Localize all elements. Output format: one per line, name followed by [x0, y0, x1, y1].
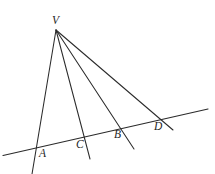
point-label-c: C [76, 138, 84, 150]
ray-v-d [56, 30, 173, 130]
vertex-label-v: V [52, 14, 61, 26]
point-label-d: D [153, 120, 163, 132]
transversal-line [3, 109, 208, 156]
geometry-figure: V A C B D [0, 0, 215, 174]
figure-canvas: V A C B D [0, 0, 215, 174]
ray-v-b [56, 30, 134, 149]
point-label-b: B [114, 128, 121, 140]
point-label-a: A [38, 147, 47, 159]
